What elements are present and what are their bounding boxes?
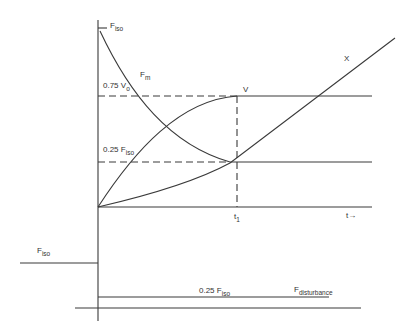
quarter-f-iso-label: 0.25 Fiso [103,146,134,154]
v-curve [98,96,372,207]
x-label: X [344,55,349,63]
v-label: V [243,86,248,94]
f-iso-left-label: Fiso [37,247,50,255]
quarter-f-iso-bottom-label: 0.25 Fiso [199,287,230,295]
force-velocity-diagram [0,0,407,331]
v0-level-label: 0.75 Vo [103,82,130,90]
x-curve [98,38,395,207]
fm-label: Fm [140,71,150,79]
t1-label: t1 [234,213,240,221]
time-axis-label: t→ [346,212,356,220]
f-iso-label: Fiso [110,22,123,30]
f-disturbance-label: Fdisturbance [294,286,333,294]
